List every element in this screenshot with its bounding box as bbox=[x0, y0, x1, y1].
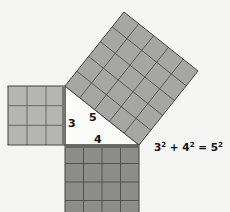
eq-plus: + bbox=[170, 141, 179, 153]
pythagorean-diagram: 3 5 4 32 + 42 = 52 bbox=[0, 0, 230, 212]
side-a-label: 3 bbox=[68, 117, 76, 130]
eq-b-exp: 2 bbox=[190, 141, 195, 149]
eq-b: 4 bbox=[182, 141, 189, 153]
small-square bbox=[8, 86, 65, 145]
eq-a-exp: 2 bbox=[161, 141, 166, 149]
diagram-canvas: 3 5 4 bbox=[0, 0, 230, 212]
pythagorean-equation: 32 + 42 = 52 bbox=[154, 141, 223, 153]
side-c-label: 5 bbox=[89, 111, 97, 124]
eq-equals: = bbox=[198, 141, 207, 153]
eq-c: 5 bbox=[211, 141, 218, 153]
eq-c-exp: 2 bbox=[218, 141, 223, 149]
side-b-label: 4 bbox=[94, 133, 102, 146]
bottom-square bbox=[65, 145, 139, 212]
